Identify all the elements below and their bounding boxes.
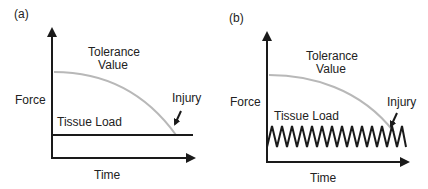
panel-label-a: (a) — [14, 8, 29, 21]
injury-label-a: Injury — [172, 92, 201, 105]
x-axis-label-a: Time — [94, 169, 120, 182]
x-axis-label-b: Time — [310, 172, 336, 185]
panel-label-b: (b) — [229, 12, 244, 25]
y-axis-label-b: Force — [230, 96, 261, 109]
injury-arrow-b — [391, 113, 397, 126]
tolerance-curve-b — [269, 75, 394, 132]
tolerance-label-a: Tolerance Value — [88, 46, 138, 72]
y-axis-label-a: Force — [15, 94, 46, 107]
tissue-load-label-a: Tissue Load — [57, 116, 122, 129]
diagram-canvas — [0, 0, 428, 189]
tissue-load-label-b: Tissue Load — [274, 110, 339, 123]
injury-arrow-a — [175, 111, 181, 124]
tolerance-label-b: Tolerance Value — [306, 50, 356, 76]
injury-label-b: Injury — [387, 96, 416, 109]
tissue-load-zigzag-b — [267, 126, 406, 147]
value-text-b: Value — [306, 63, 356, 76]
value-text-a: Value — [88, 59, 138, 72]
